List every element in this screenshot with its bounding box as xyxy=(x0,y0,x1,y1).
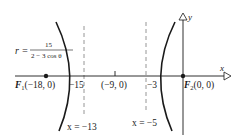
y-axis-label: y xyxy=(187,12,192,22)
equation-denominator: 2 − 3 cos θ xyxy=(31,52,62,60)
x-axis-arrow-icon xyxy=(224,72,231,80)
x-axis-label: x xyxy=(219,63,224,73)
equation-lhs: r = xyxy=(15,45,28,56)
tick-label-right-vertex: −3 xyxy=(147,80,157,90)
hyperbola-right-branch xyxy=(161,22,175,131)
directrix-label-x-neg5: x = −5 xyxy=(132,118,157,128)
focus-f1-dot xyxy=(44,74,48,78)
focus-f1-label: F1(−18, 0) xyxy=(14,80,55,91)
focus-f2-label: F2(0, 0) xyxy=(183,80,214,91)
hyperbola-left-branch xyxy=(56,22,70,131)
hyperbola-diagram: r = 15 2 − 3 cos θ y x F1(−18, 0) −15 (−… xyxy=(0,0,240,138)
tick-label-center: (−9, 0) xyxy=(101,80,127,91)
y-axis-arrow-icon xyxy=(179,13,187,20)
equation-numerator: 15 xyxy=(45,41,53,49)
directrix-label-x-neg13: x = −13 xyxy=(67,122,97,132)
focus-f2-dot xyxy=(181,74,185,78)
tick-label-left-vertex: −15 xyxy=(69,80,84,90)
